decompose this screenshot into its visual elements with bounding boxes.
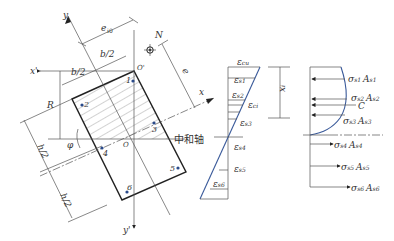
svg-text:σs4As4: σs4As4	[334, 140, 363, 150]
cross-section: y x' x y' O' O N e i0 b/2 b/2 R h/2 h/2 …	[20, 10, 214, 235]
rebar-label-6: 6	[127, 183, 132, 192]
svg-text:i0: i0	[107, 27, 113, 34]
svg-text:εs1: εs1	[234, 75, 246, 85]
rebar-label-1: 1	[126, 76, 131, 85]
angle-arc	[77, 129, 80, 148]
label-phi: φ	[67, 140, 74, 150]
label-x: x	[199, 87, 204, 97]
rebar-label-3: 3	[152, 125, 157, 134]
label-y-prime: y'	[122, 225, 131, 235]
svg-text:σs6As6: σs6As6	[351, 183, 380, 193]
svg-text:σs3As3: σs3As3	[343, 116, 372, 126]
label-o-prime: O'	[137, 64, 145, 72]
label-eccentricity: e	[101, 23, 106, 33]
rebar-1	[131, 79, 134, 82]
label-R: R	[46, 100, 54, 110]
svg-text:εs2: εs2	[232, 90, 244, 100]
label-e3: e	[180, 66, 191, 75]
stress-diagram: σs1As1 σs2As2 C σs3As3 σs4As4 σs5As5 σs6…	[303, 67, 383, 193]
svg-text:εs3: εs3	[240, 118, 252, 128]
svg-text:σs1As1: σs1As1	[348, 74, 376, 84]
rebar-label-4: 4	[102, 149, 108, 158]
label-neutral-axis: 中和轴	[174, 133, 204, 145]
label-b2-right: b/2	[100, 49, 115, 59]
section-diagram: y x' x y' O' O N e i0 b/2 b/2 R h/2 h/2 …	[0, 0, 394, 241]
label-b2-left: b/2	[71, 67, 86, 77]
stress-curve	[310, 67, 346, 135]
strain-diagram: εcu εs1 εs2 εci εs3 εs4 εs5 εs6 xi	[200, 57, 290, 199]
dim-e3	[162, 44, 195, 108]
svg-text:εci: εci	[248, 100, 258, 110]
label-y: y	[62, 10, 69, 20]
svg-text:σs5As5: σs5As5	[341, 162, 370, 172]
svg-text:σs2As2: σs2As2	[351, 93, 380, 103]
label-h2-upper: h/2	[35, 142, 50, 160]
svg-text:εs6: εs6	[213, 179, 225, 189]
label-h2-lower: h/2	[58, 191, 73, 209]
svg-text:εcu: εcu	[237, 57, 249, 67]
label-o: O	[123, 141, 129, 149]
rebar-5	[176, 166, 179, 169]
svg-text:εs4: εs4	[234, 142, 246, 152]
svg-text:εs5: εs5	[234, 164, 246, 174]
rebar-label-5: 5	[170, 164, 175, 173]
svg-text:xi: xi	[277, 85, 287, 92]
strain-line	[200, 67, 260, 199]
label-x-prime: x'	[30, 66, 38, 76]
label-load-n: N	[154, 30, 164, 40]
label-C: C	[358, 101, 365, 111]
rebar-label-2: 2	[83, 100, 89, 109]
